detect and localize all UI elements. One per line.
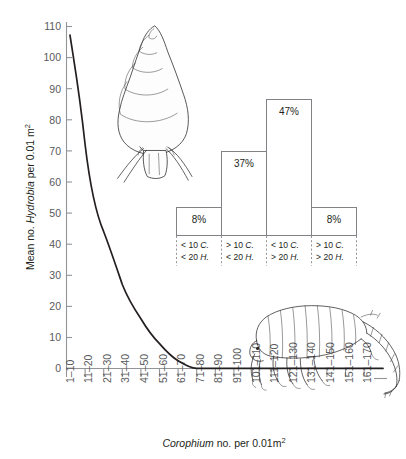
y-axis-title-pre: Mean no.: [24, 223, 36, 270]
x-tick-label: 41–50: [138, 354, 150, 383]
y-tick-90: 90: [49, 83, 72, 95]
x-axis-ticks: [67, 369, 388, 379]
y-tick-30: 30: [49, 269, 72, 281]
y-tick-70: 70: [49, 145, 72, 157]
y-axis-title: Mean no. Hydrobia per 0.01 m2: [23, 124, 36, 270]
scientific-figure: 110 100 90 80 70 60: [0, 0, 406, 459]
hydrobia-snail-illustration: [118, 26, 192, 182]
x-axis-title-sup: 2: [281, 436, 285, 445]
y-tick-100: 100: [43, 51, 72, 63]
x-tick-label: 1–10: [64, 359, 76, 383]
inset-category-line2: < 20 H.: [226, 252, 254, 262]
y-tick-110: 110: [44, 20, 72, 32]
y-tick-label: 80: [49, 114, 61, 126]
y-tick-label: 40: [49, 238, 61, 250]
x-tick-label: 111–120: [268, 344, 280, 383]
inset-category-line2: < 20 H.: [181, 252, 209, 262]
inset-category-label: < 10 C. < 20 H.: [181, 240, 209, 262]
inset-bar-value: 8%: [192, 214, 207, 225]
inset-bar-value: 47%: [279, 106, 299, 117]
inset-category-line2: > 20 H.: [271, 252, 299, 262]
inset-bar-value: 8%: [327, 214, 342, 225]
inset-category-line2: > 20 H.: [316, 252, 344, 262]
inset-category-line1: < 10 C.: [181, 240, 209, 250]
y-tick-label: 90: [49, 83, 61, 95]
y-tick-50: 50: [49, 207, 72, 219]
y-axis-title-sup: 2: [23, 124, 32, 128]
y-tick-label: 10: [49, 331, 61, 343]
x-axis-title-rest: no. per 0.01m: [214, 437, 282, 449]
y-tick-label: 100: [43, 51, 61, 63]
x-tick-label: 141–150: [324, 342, 336, 383]
y-tick-60: 60: [49, 176, 72, 188]
y-tick-label: 0: [55, 362, 61, 374]
y-tick-label: 20: [49, 300, 61, 312]
inset-category-label: < 10 C. > 20 H.: [271, 240, 299, 262]
inset-category-line1: < 10 C.: [271, 240, 299, 250]
x-tick-label: 91–100: [231, 348, 243, 383]
x-axis-title-genus: Corophium: [162, 437, 214, 449]
y-tick-label: 60: [49, 176, 61, 188]
inset-bar-chart: 8% 37% 47% 8% < 10 C.: [177, 100, 357, 267]
y-tick-40: 40: [49, 238, 72, 250]
y-axis-title-genus: Hydrobia: [24, 181, 36, 223]
x-tick-label: 161–170: [361, 342, 373, 383]
figure-container: 110 100 90 80 70 60: [0, 0, 406, 459]
x-tick-label: 121–130: [287, 342, 299, 383]
y-tick-label: 110: [44, 20, 61, 32]
inset-category-line1: > 10 C.: [316, 240, 344, 250]
y-axis-title-post: per 0.01 m: [24, 128, 36, 181]
inset-bar: [267, 100, 312, 236]
x-axis-title: Corophium no. per 0.01m2: [162, 436, 285, 449]
y-axis-ticks: 110 100 90 80 70 60: [43, 20, 72, 374]
amphipod-eye: [256, 347, 259, 350]
y-tick-20: 20: [49, 300, 72, 312]
x-tick-label: 51–60: [157, 354, 169, 383]
x-tick-label: 61–70: [175, 354, 187, 383]
x-tick-label: 21–30: [101, 354, 113, 383]
y-tick-label: 30: [49, 269, 61, 281]
inset-bar-value: 37%: [234, 158, 254, 169]
x-tick-label: 31–40: [119, 354, 131, 383]
x-axis-tick-labels: 1–10 11–20 21–30 31–40 41–50 51–60 61–70…: [64, 342, 374, 383]
inset-category-line1: > 10 C.: [226, 240, 254, 250]
inset-category-label: > 10 C. > 20 H.: [316, 240, 344, 262]
y-tick-label: 50: [49, 207, 61, 219]
y-tick-label: 70: [49, 145, 61, 157]
x-tick-label: 11–20: [82, 354, 94, 383]
y-tick-80: 80: [49, 114, 72, 126]
inset-category-label: > 10 C. < 20 H.: [226, 240, 254, 262]
y-tick-10: 10: [49, 331, 72, 343]
